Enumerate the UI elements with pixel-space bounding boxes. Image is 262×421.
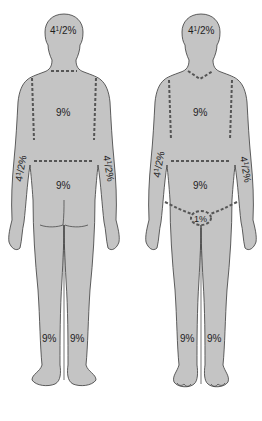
posterior-head-label: 41/2%: [50, 25, 77, 36]
rule-of-nines-diagram: 41/2% 9% 9% 41/2% 41/2% 9% 9% 41/2% 9% 9…: [0, 0, 262, 421]
posterior-right-leg-label: 9%: [70, 333, 85, 344]
anterior-left-leg-label: 9%: [180, 333, 195, 344]
posterior-left-leg-label: 9%: [42, 333, 57, 344]
figure-anterior: 41/2% 9% 9% 1% 41/2% 41/2% 9% 9%: [146, 14, 257, 387]
posterior-lower-trunk-label: 9%: [56, 180, 71, 191]
anterior-right-leg-label: 9%: [207, 333, 222, 344]
posterior-upper-trunk-label: 9%: [56, 107, 71, 118]
figure-posterior: 41/2% 9% 9% 41/2% 41/2% 9% 9%: [9, 14, 120, 386]
anterior-upper-trunk-label: 9%: [193, 107, 208, 118]
anterior-lower-trunk-label: 9%: [193, 180, 208, 191]
anterior-head-label: 41/2%: [188, 25, 215, 36]
anterior-genitals-label: 1%: [194, 214, 207, 224]
